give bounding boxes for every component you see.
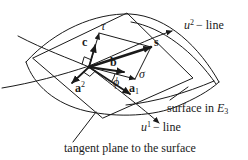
tangent-label-leader — [73, 112, 96, 142]
label-vector-tau: τ — [101, 19, 106, 33]
label-vector-s: s — [154, 35, 159, 49]
surface-label-leader — [170, 87, 188, 100]
vector-s — [89, 47, 151, 67]
label-vector-sigma: σ — [139, 67, 146, 81]
label-surface: surface inE3 — [167, 101, 228, 116]
label-u2-superscript: 2 — [190, 18, 194, 27]
label-u1-line: u1− line — [141, 120, 181, 135]
surface-tangent-plane-figure: c τ s b σ ϕ a1 a2 u2− line u1− line surf… — [0, 0, 248, 160]
construction-tau-to-s — [99, 33, 151, 47]
label-u2-rest: − line — [196, 18, 224, 32]
origin-point — [87, 65, 90, 68]
label-vector-c: c — [82, 35, 88, 49]
label-u2-line: u2− line — [184, 18, 224, 33]
label-surface-prefix: surface in — [167, 101, 214, 115]
right-angle-mark-basis — [84, 71, 96, 76]
vector-a1 — [89, 67, 130, 94]
label-a1-subscript: 1 — [135, 87, 139, 96]
label-a2-superscript: 2 — [81, 80, 85, 89]
label-vector-a1: a1 — [129, 81, 139, 96]
label-vector-a2: a2 — [75, 80, 85, 95]
label-u1-rest: − line — [153, 120, 181, 134]
label-surface-subscript: 3 — [224, 107, 228, 116]
diagram-canvas: c τ s b σ ϕ a1 a2 u2− line u1− line surf… — [0, 0, 248, 160]
label-u1-superscript: 1 — [147, 120, 151, 129]
label-tangent-plane: tangent plane to the surface — [64, 141, 196, 155]
label-vector-b: b — [110, 55, 117, 69]
label-angle-phi: ϕ — [113, 75, 119, 89]
